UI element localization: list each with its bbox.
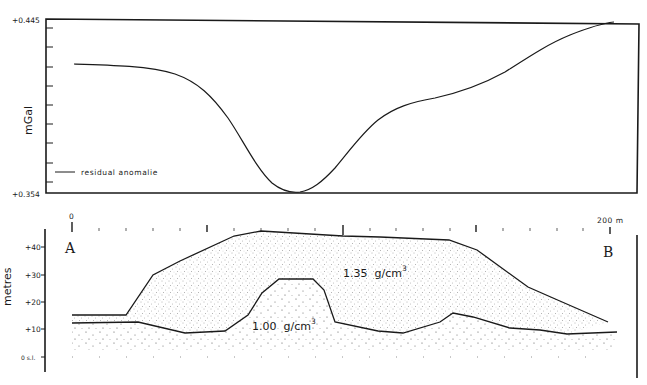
point-b-label: B bbox=[603, 244, 613, 260]
density-lower-value: 1.00 g/cm bbox=[252, 320, 311, 333]
gravity-anomaly-chart: +0.445 +0.354 mGal residual anomalie bbox=[12, 16, 639, 199]
top-y-axis-title: mGal bbox=[22, 106, 35, 135]
geological-cross-section: 0 200 m A B +40 +30 +20 +10 0 s.l. metre… bbox=[1, 212, 637, 378]
residual-anomaly-curve bbox=[74, 22, 614, 192]
top-y-min-label: +0.354 bbox=[12, 190, 40, 199]
density-upper-value: 1.35 g/cm bbox=[343, 267, 402, 280]
figure: +0.445 +0.354 mGal residual anomalie bbox=[0, 0, 647, 385]
elevation-tick-0: 0 s.l. bbox=[21, 354, 35, 361]
top-y-ticks bbox=[46, 28, 53, 182]
point-a-label: A bbox=[64, 240, 76, 256]
distance-scale-bar bbox=[72, 222, 610, 235]
legend-label: residual anomalie bbox=[81, 168, 158, 177]
density-label-upper: 1.35 g/cm3 bbox=[343, 264, 407, 280]
scale-start-label: 0 bbox=[69, 212, 74, 221]
density-label-lower: 1.00 g/cm3 bbox=[252, 317, 316, 333]
upper-fill-body bbox=[72, 231, 608, 334]
elevation-tick-40: +40 bbox=[25, 243, 41, 252]
top-y-max-label: +0.445 bbox=[12, 16, 40, 25]
density-lower-superscript: 3 bbox=[311, 317, 316, 326]
elevation-tick-30: +30 bbox=[25, 271, 41, 280]
elevation-axis-title: metres bbox=[1, 267, 14, 306]
elevation-tick-10: +10 bbox=[25, 325, 41, 334]
scale-end-label: 200 m bbox=[597, 216, 624, 225]
density-upper-superscript: 3 bbox=[402, 264, 407, 273]
elevation-tick-20: +20 bbox=[25, 298, 41, 307]
